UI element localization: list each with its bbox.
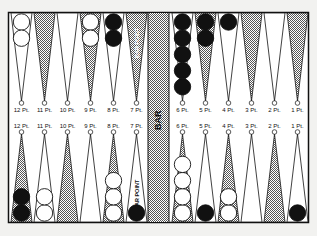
point-label: 2 Pt. [268, 107, 281, 113]
black-checker[interactable] [197, 14, 213, 30]
point-tip-icon [88, 101, 93, 106]
white-checker[interactable] [105, 172, 121, 188]
white-checker[interactable] [105, 189, 121, 205]
point-label: 10 Pt. [60, 123, 76, 129]
point-label: 6 Pt. [176, 123, 189, 129]
point-label: 3 Pt. [245, 107, 258, 113]
white-checker[interactable] [36, 205, 52, 221]
point-tip-icon [203, 101, 208, 106]
white-checker[interactable] [174, 189, 190, 205]
point-tip-icon [65, 130, 70, 135]
point-tip-icon [272, 130, 277, 135]
point-tip-icon [65, 101, 70, 106]
point-label: 1 Pt. [291, 123, 304, 129]
point-label: 4 Pt. [222, 107, 235, 113]
point-label: 12 Pt. [14, 123, 30, 129]
point-tip-icon [42, 101, 47, 106]
point-tip-icon [203, 130, 208, 135]
point-label: 8 Pt. [107, 123, 120, 129]
white-checker[interactable] [82, 30, 98, 46]
point-label: 11 Pt. [37, 107, 53, 113]
point-label: 1 Pt. [291, 107, 304, 113]
black-checker[interactable] [174, 79, 190, 95]
point-label: 7 Pt. [130, 123, 143, 129]
white-checker[interactable] [174, 172, 190, 188]
black-checker[interactable] [197, 205, 213, 221]
point-label: 4 Pt. [222, 123, 235, 129]
point-tip-icon [134, 101, 139, 106]
bar-label: BAR [153, 110, 163, 130]
point-tip-icon [19, 130, 24, 135]
point-label: 11 Pt. [37, 123, 53, 129]
point-tip-icon [272, 101, 277, 106]
white-checker[interactable] [82, 14, 98, 30]
point-tip-icon [249, 101, 254, 106]
black-checker[interactable] [174, 46, 190, 62]
white-checker[interactable] [36, 189, 52, 205]
point-label: 3 Pt. [245, 123, 258, 129]
black-checker[interactable] [13, 205, 29, 221]
point-label: 6 Pt. [176, 107, 189, 113]
point-tip-icon [249, 130, 254, 135]
point-label: 7 Pt. [130, 107, 143, 113]
black-checker[interactable] [105, 30, 121, 46]
backgammon-board: 12 Pt.11 Pt.10 Pt.9 Pt.8 Pt.7 Pt.6 Pt.5 … [0, 0, 317, 236]
bar-point-label-bottom: BAR POINT [134, 179, 140, 210]
black-checker[interactable] [174, 30, 190, 46]
point-tip-icon [180, 101, 185, 106]
point-tip-icon [88, 130, 93, 135]
black-checker[interactable] [197, 30, 213, 46]
black-checker[interactable] [289, 205, 305, 221]
white-checker[interactable] [174, 205, 190, 221]
point-tip-icon [295, 101, 300, 106]
point-tip-icon [226, 101, 231, 106]
point-tip-icon [226, 130, 231, 135]
point-tip-icon [180, 130, 185, 135]
point-label: 12 Pt. [14, 107, 30, 113]
point-tip-icon [111, 130, 116, 135]
white-checker[interactable] [220, 189, 236, 205]
point-label: 9 Pt. [84, 123, 97, 129]
point-label: 10 Pt. [60, 107, 76, 113]
black-checker[interactable] [174, 14, 190, 30]
black-checker[interactable] [174, 62, 190, 78]
bar-point-label-top: BAR POINT [134, 27, 140, 58]
white-checker[interactable] [13, 30, 29, 46]
white-checker[interactable] [220, 205, 236, 221]
point-tip-icon [134, 130, 139, 135]
point-label: 5 Pt. [199, 123, 212, 129]
point-tip-icon [111, 101, 116, 106]
black-checker[interactable] [13, 189, 29, 205]
black-checker[interactable] [105, 14, 121, 30]
point-tip-icon [19, 101, 24, 106]
point-label: 9 Pt. [84, 107, 97, 113]
point-tip-icon [295, 130, 300, 135]
white-checker[interactable] [13, 14, 29, 30]
point-label: 2 Pt. [268, 123, 281, 129]
point-label: 5 Pt. [199, 107, 212, 113]
white-checker[interactable] [174, 156, 190, 172]
point-label: 8 Pt. [107, 107, 120, 113]
black-checker[interactable] [220, 14, 236, 30]
white-checker[interactable] [105, 205, 121, 221]
point-tip-icon [42, 130, 47, 135]
